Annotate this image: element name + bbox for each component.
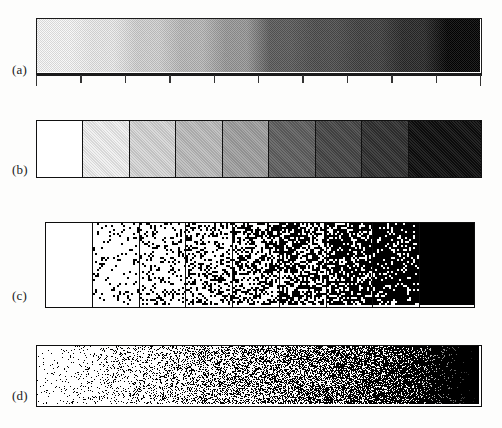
axis-tick (258, 75, 259, 83)
dither-cell-canvas (233, 223, 280, 305)
dither-cell-canvas (186, 223, 233, 305)
axis-tick (36, 75, 37, 86)
axis-tick (169, 75, 170, 83)
dither-cell (93, 223, 140, 307)
ramp-strip-stepped (36, 18, 482, 74)
axis-tick (391, 75, 392, 83)
dither-cell-canvas (46, 223, 93, 305)
axis-tick (480, 75, 481, 86)
gray-cell (176, 121, 222, 177)
gray-cell (223, 121, 269, 177)
dither-cell (327, 223, 374, 307)
gray-cell (269, 121, 315, 177)
axis-tick (125, 75, 126, 83)
gray-cell (316, 121, 362, 177)
axis-tick (302, 75, 303, 83)
dither-cell (233, 223, 280, 307)
panel-label-a: (a) (12, 62, 27, 78)
gray-cell (83, 121, 129, 177)
dither-cell-canvas (373, 223, 420, 305)
dither-cell-canvas (420, 223, 474, 305)
ramp-strip-cells (36, 120, 482, 178)
dither-cell (186, 223, 233, 307)
axis-tick (347, 75, 348, 83)
axis-tick (214, 75, 215, 83)
ramp-axis-a (36, 74, 482, 89)
dither-cell (420, 223, 474, 307)
ramp-strip-dither-cells (45, 222, 475, 308)
dither-cell-canvas (327, 223, 374, 305)
dither-cell (373, 223, 420, 307)
dither-cell-canvas (93, 223, 140, 305)
dither-cell (280, 223, 327, 307)
gray-cell (362, 121, 408, 177)
gray-cell (37, 121, 83, 177)
axis-tick (80, 75, 81, 83)
dither-cell-canvas (280, 223, 327, 305)
ramp-strip-dither-continuous (36, 345, 482, 407)
panel-label-b: (b) (12, 162, 28, 178)
stepped-ramp-canvas (37, 19, 480, 72)
panel-label-d: (d) (12, 388, 28, 404)
axis-tick (436, 75, 437, 83)
gray-cell (409, 121, 481, 177)
continuous-dither-canvas (37, 346, 479, 404)
dither-cell (46, 223, 93, 307)
figure-root: (a) (b) (c) (d) (0, 0, 502, 428)
dither-cell-canvas (140, 223, 187, 305)
panel-label-c: (c) (12, 288, 27, 304)
gray-cell (130, 121, 176, 177)
dither-cell (140, 223, 187, 307)
